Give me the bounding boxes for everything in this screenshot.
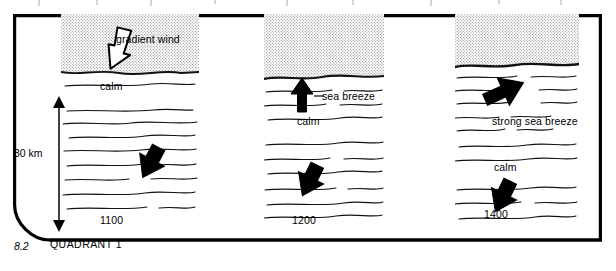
scale-bar-30km (35, 94, 83, 234)
strong-sea-breeze-arrow (479, 69, 530, 113)
profile-panel-1200 (264, 14, 384, 229)
subsidence-arrow (130, 141, 171, 184)
gradient-wind-label: gradient wind (116, 34, 180, 45)
strong-sea-breeze-label: strong sea breeze (492, 116, 578, 127)
stipple-region (455, 14, 579, 67)
time-label-1400: 1400 (484, 208, 508, 220)
sea-breeze-label: sea breeze (322, 91, 375, 102)
clipped-text-fragments-above (0, 0, 616, 10)
sea-breeze-arrow (291, 78, 313, 112)
figure-number: 8.2 (14, 240, 29, 252)
stipple-region (264, 14, 384, 79)
calm-label-panel-2: calm (297, 116, 320, 127)
time-label-1100: 1100 (100, 214, 123, 226)
calm-label-panel-3: calm (494, 162, 517, 173)
time-label-1200: 1200 (292, 214, 316, 226)
subsidence-arrow (290, 159, 330, 202)
figure-caption: QUADRANT 1 (50, 238, 122, 250)
gradient-wind-arrow (105, 22, 149, 78)
calm-label-panel-1: calm (100, 81, 123, 92)
scale-label-30km: 30 km (14, 147, 43, 159)
